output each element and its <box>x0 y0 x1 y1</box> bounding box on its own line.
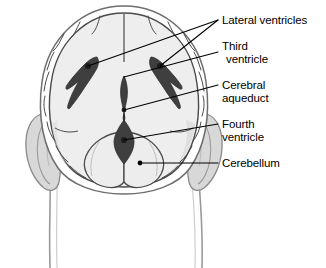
label-lateral-ventricles-line1: Lateral ventricles <box>222 14 307 26</box>
label-cerebellum-line1: Cerebellum <box>222 157 280 169</box>
head-anatomy-illustration <box>0 0 326 268</box>
label-lateral-ventricles: Lateral ventricles <box>222 14 307 27</box>
label-fourth-ventricle: Fourth ventricle <box>222 118 264 143</box>
anatomy-figure: Lateral ventricles Third ventricle Cereb… <box>0 0 326 268</box>
label-cerebral-aqueduct: Cerebral aqueduct <box>222 79 269 104</box>
label-fourth-ventricle-line1: Fourth <box>222 118 255 130</box>
label-fourth-ventricle-line2: ventricle <box>222 131 264 144</box>
label-cerebellum: Cerebellum <box>222 157 280 170</box>
label-cerebral-aqueduct-line2: aqueduct <box>222 92 269 105</box>
label-cerebral-aqueduct-line1: Cerebral <box>222 79 265 91</box>
label-third-ventricle-line2: ventricle <box>222 53 268 66</box>
label-third-ventricle-line1: Third <box>222 40 248 52</box>
label-third-ventricle: Third ventricle <box>222 40 268 65</box>
